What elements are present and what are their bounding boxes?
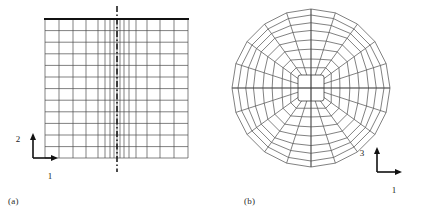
axis-label-vertical-2: 2 (16, 134, 21, 144)
mesh-figure: 2 1 (a) 3 1 (b) (0, 0, 421, 218)
axis-label-vertical-3: 3 (360, 148, 365, 158)
axis-indicator-b (374, 147, 402, 175)
axis-indicator-a-vertical-arrowhead (30, 133, 36, 140)
panel-a-svg: 2 1 (0, 0, 210, 218)
mesh-core-block (298, 75, 324, 101)
mesh-spoke-9 (315, 101, 335, 163)
panel-b-caption: (b) (244, 196, 255, 206)
axis-label-horizontal-1: 1 (48, 171, 53, 181)
mesh-spoke-1 (315, 13, 335, 75)
mesh-spoke-4 (324, 64, 386, 84)
mesh-spoke-11 (287, 101, 307, 163)
panel-a-structured-mesh: 2 1 (0, 0, 210, 218)
mesh-spoke-16 (236, 64, 298, 84)
axis-indicator-b-vertical-arrowhead (374, 147, 380, 154)
axis-indicator-a (30, 133, 58, 161)
mesh-spoke-6 (324, 92, 386, 112)
mesh-spoke-19 (287, 13, 307, 75)
panel-b-ogrid-mesh: 3 1 (211, 0, 421, 218)
axis-indicator-b-horizontal-arrowhead (395, 169, 402, 175)
panel-b-svg: 3 1 (211, 0, 421, 218)
axis-indicator-a-horizontal-arrowhead (51, 155, 58, 161)
panel-a-caption: (a) (8, 196, 19, 206)
axis-label-horizontal-1: 1 (392, 185, 397, 195)
mesh-spoke-14 (236, 92, 298, 112)
